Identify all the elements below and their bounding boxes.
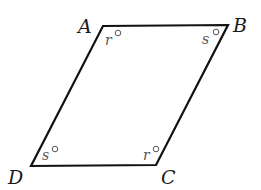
vertex-label-a: A [76, 15, 92, 37]
parallelogram-diagram: A B C D r s r s [0, 0, 261, 190]
degree-symbol-icon [115, 30, 121, 36]
angle-label-d: s [42, 146, 58, 163]
angle-label-a: r [105, 30, 121, 48]
vertex-label-d: D [7, 166, 23, 188]
degree-symbol-icon [52, 146, 58, 152]
angle-a-variable: r [105, 32, 113, 48]
angle-c-variable: r [143, 147, 151, 163]
angle-d-variable: s [42, 147, 49, 163]
vertex-label-b: B [232, 14, 247, 36]
angle-label-b: s [202, 29, 219, 47]
angle-b-variable: s [202, 31, 209, 47]
vertex-label-c: C [161, 166, 176, 188]
parallelogram-abcd [31, 25, 228, 166]
degree-symbol-icon [153, 146, 159, 152]
angle-label-c: r [143, 146, 159, 163]
degree-symbol-icon [213, 29, 219, 35]
